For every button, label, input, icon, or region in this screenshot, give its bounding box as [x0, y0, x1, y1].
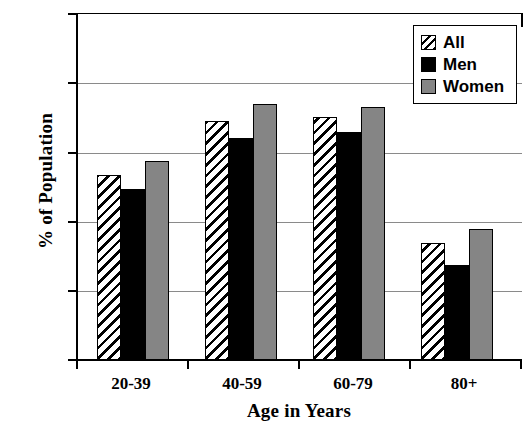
- bar-chart-figure: % of Population 50 40 30 20 10 0: [0, 0, 530, 437]
- bar-all-40-59: [205, 121, 229, 361]
- x-tick-mark-4: [520, 360, 522, 369]
- x-axis-title: Age in Years: [76, 400, 522, 422]
- bar-men-80-plus: [445, 265, 469, 361]
- x-tick-mark-3: [409, 360, 411, 369]
- legend-swatch-women-icon: [421, 79, 436, 94]
- bar-all-60-79: [313, 117, 337, 361]
- bar-women-40-59: [253, 104, 277, 361]
- legend-item-women: Women: [421, 75, 509, 97]
- legend: All Men Women: [413, 25, 517, 104]
- x-tick-mark-2: [298, 360, 300, 369]
- bar-men-60-79: [337, 132, 361, 361]
- bar-men-40-59: [229, 138, 253, 361]
- x-tick-label-60-79: 60-79: [293, 375, 413, 392]
- y-axis-title: % of Population: [35, 51, 57, 311]
- bar-men-20-39: [121, 189, 145, 361]
- x-tick-mark-1: [187, 360, 189, 369]
- legend-label-all: All: [443, 34, 465, 51]
- x-tick-label-80-plus: 80+: [404, 375, 524, 392]
- x-tick-label-40-59: 40-59: [182, 375, 302, 392]
- legend-label-women: Women: [443, 78, 504, 95]
- bar-women-60-79: [361, 107, 385, 361]
- legend-label-men: Men: [443, 56, 477, 73]
- legend-swatch-men-icon: [421, 57, 436, 72]
- bar-women-20-39: [145, 161, 169, 361]
- bar-all-80-plus: [421, 243, 445, 361]
- legend-item-men: Men: [421, 53, 509, 75]
- legend-swatch-all-icon: [421, 35, 436, 50]
- x-tick-mark-0: [76, 360, 78, 369]
- plot-right-border: [521, 13, 523, 27]
- x-tick-label-20-39: 20-39: [71, 375, 191, 392]
- bar-women-80-plus: [469, 229, 493, 361]
- gridline-30: [78, 153, 522, 154]
- bar-all-20-39: [97, 175, 121, 361]
- legend-item-all: All: [421, 31, 509, 53]
